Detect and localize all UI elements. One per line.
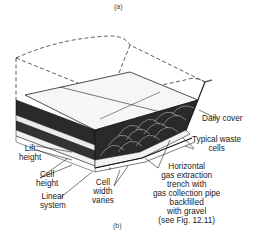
caption-b: (b) [113,222,122,229]
label-gas-extraction-trench: Horizontal gas extraction trench with ga… [153,162,220,225]
label-lift-height: Lift height [19,144,41,162]
label-daily-cover: Daily cover [202,114,243,123]
label-cell-height: Cell height [36,170,58,188]
label-cell-width: Cell width varies [92,178,114,205]
label-typical-waste-cells: Typical waste cells [192,135,241,153]
label-liner-system: Linear system [40,192,66,210]
